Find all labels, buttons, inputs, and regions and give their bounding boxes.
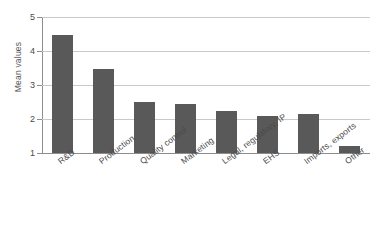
y-axis-tick-label: 1 <box>30 149 35 158</box>
bar <box>52 35 73 153</box>
bars-group <box>42 17 370 154</box>
y-axis-title: Mean values <box>13 22 23 112</box>
bar-chart-figure: Mean values 12345 R&DProductionQuality c… <box>0 0 392 248</box>
y-axis-tick-label: 2 <box>30 115 35 124</box>
bar <box>93 69 114 153</box>
plot-area: 12345 <box>42 17 370 154</box>
y-axis-tick-label: 5 <box>30 13 35 22</box>
y-axis-tick-label: 4 <box>30 47 35 56</box>
bar <box>134 102 155 153</box>
y-axis-tick-label: 3 <box>30 81 35 90</box>
x-axis-labels-group: R&DProductionQuality controlMarketingLeg… <box>42 158 370 238</box>
